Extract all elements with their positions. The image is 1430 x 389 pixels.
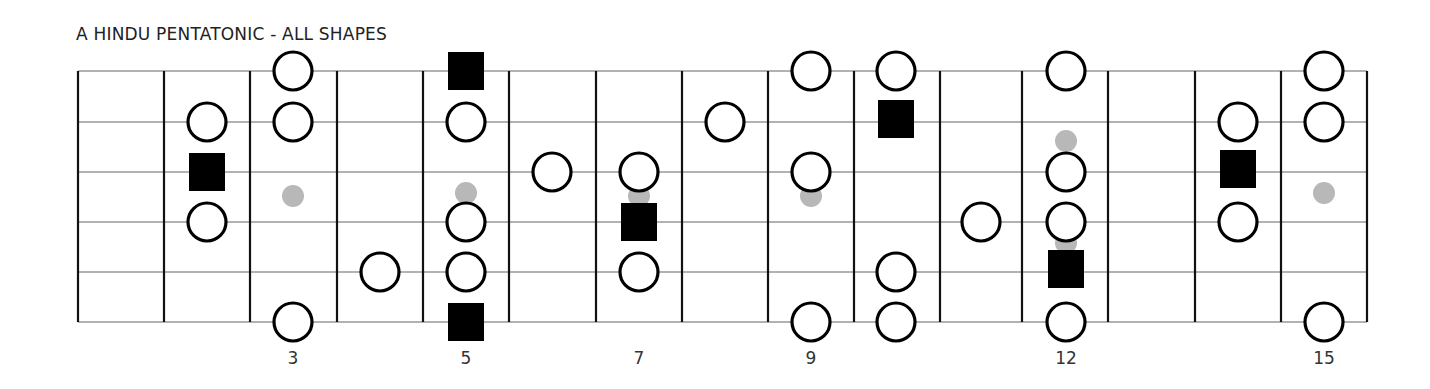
scale-note-circle-icon [361, 253, 399, 291]
scale-note-circle-icon [1047, 52, 1085, 90]
fret-number-label: 3 [288, 348, 299, 368]
fret-number-label: 12 [1055, 348, 1077, 368]
scale-note-circle-icon [1047, 153, 1085, 191]
scale-note-circle-icon [447, 253, 485, 291]
fret-number-label: 5 [461, 348, 472, 368]
root-note-square-icon [621, 203, 657, 241]
scale-note-circle-icon [447, 203, 485, 241]
root-note-square-icon [878, 100, 914, 138]
inlay-dot-icon [455, 182, 477, 204]
root-note-square-icon [189, 153, 225, 191]
scale-note-circle-icon [792, 303, 830, 341]
scale-note-circle-icon [1219, 103, 1257, 141]
scale-note-circle-icon [1047, 203, 1085, 241]
scale-note-circle-icon [274, 103, 312, 141]
scale-note-circle-icon [877, 253, 915, 291]
scale-note-circle-icon [1047, 303, 1085, 341]
scale-note-circle-icon [706, 103, 744, 141]
scale-note-circle-icon [620, 253, 658, 291]
scale-note-circle-icon [1305, 52, 1343, 90]
scale-note-circle-icon [274, 52, 312, 90]
fret-number-label: 9 [806, 348, 817, 368]
root-note-square-icon [1048, 250, 1084, 288]
scale-note-circle-icon [1305, 103, 1343, 141]
fret-number-label: 15 [1313, 348, 1335, 368]
root-note-square-icon [448, 52, 484, 90]
fret-number-label: 7 [634, 348, 645, 368]
scale-note-circle-icon [792, 153, 830, 191]
scale-note-circle-icon [188, 103, 226, 141]
root-note-square-icon [448, 303, 484, 341]
scale-note-circle-icon [1305, 303, 1343, 341]
scale-note-circle-icon [962, 203, 1000, 241]
inlay-dot-icon [282, 185, 304, 207]
scale-note-circle-icon [792, 52, 830, 90]
scale-note-circle-icon [877, 52, 915, 90]
scale-note-circle-icon [188, 203, 226, 241]
scale-note-circle-icon [877, 303, 915, 341]
scale-note-circle-icon [1219, 203, 1257, 241]
root-note-square-icon [1220, 150, 1256, 188]
inlay-dot-icon [1313, 182, 1335, 204]
scale-note-circle-icon [447, 103, 485, 141]
scale-note-circle-icon [274, 303, 312, 341]
inlay-dot-icon [1055, 130, 1077, 152]
scale-note-circle-icon [620, 153, 658, 191]
fretboard [0, 0, 1430, 389]
scale-note-circle-icon [533, 153, 571, 191]
